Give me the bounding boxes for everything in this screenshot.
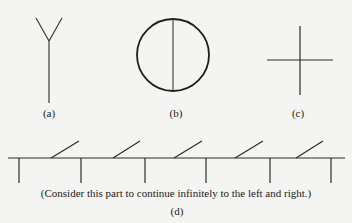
slant-segment [174, 141, 202, 158]
y-right-branch [49, 18, 62, 41]
slant-segment [235, 141, 263, 158]
slant-segment [296, 141, 323, 158]
figure-c-cross [267, 26, 333, 95]
y-left-branch [36, 18, 49, 41]
figure-a-y-shape [36, 18, 62, 103]
slant-segment [113, 141, 140, 158]
figure-d-label: (d) [171, 205, 184, 217]
figure-d-caption: (Consider this part to continue infinite… [41, 187, 311, 199]
figure-b-circle [137, 19, 209, 91]
slant-segment [51, 141, 79, 158]
figure-d-infinite-line [8, 141, 345, 183]
figure-a-label: (a) [43, 107, 55, 119]
figure-c-label: (c) [292, 107, 304, 119]
figure-b-label: (b) [170, 107, 183, 119]
